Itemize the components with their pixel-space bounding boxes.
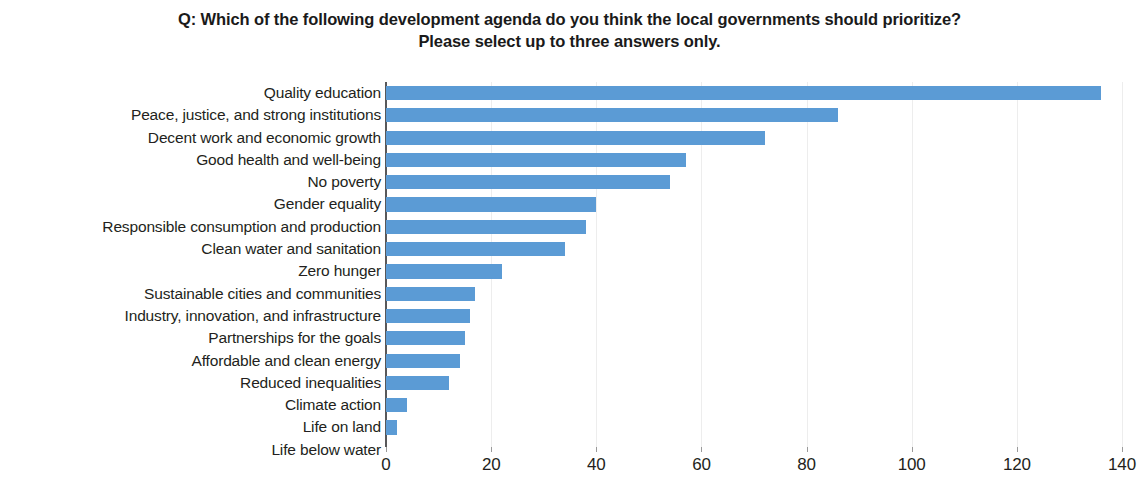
bar-row: Reduced inequalities bbox=[0, 372, 1139, 394]
category-label: Affordable and clean energy bbox=[0, 350, 381, 372]
plot-area: Quality educationPeace, justice, and str… bbox=[0, 0, 1139, 483]
bar bbox=[386, 264, 502, 278]
bar-row: No poverty bbox=[0, 171, 1139, 193]
bar-row: Clean water and sanitation bbox=[0, 238, 1139, 260]
category-label: Gender equality bbox=[0, 193, 381, 215]
category-label: No poverty bbox=[0, 171, 381, 193]
category-label: Life on land bbox=[0, 416, 381, 438]
bar bbox=[386, 197, 596, 211]
bar-track bbox=[386, 398, 407, 412]
category-label: Clean water and sanitation bbox=[0, 238, 381, 260]
x-axis-tick-label: 120 bbox=[1003, 452, 1031, 478]
category-label: Decent work and economic growth bbox=[0, 127, 381, 149]
category-label: Partnerships for the goals bbox=[0, 327, 381, 349]
bar-track bbox=[386, 264, 502, 278]
bar bbox=[386, 420, 397, 434]
category-label: Good health and well-being bbox=[0, 149, 381, 171]
bar-track bbox=[386, 86, 1101, 100]
bar bbox=[386, 309, 470, 323]
bar bbox=[386, 376, 449, 390]
bar-row: Life on land bbox=[0, 416, 1139, 438]
bar-row: Industry, innovation, and infrastructure bbox=[0, 305, 1139, 327]
bar-track bbox=[386, 376, 449, 390]
bar-row: Gender equality bbox=[0, 193, 1139, 215]
bar-row: Good health and well-being bbox=[0, 149, 1139, 171]
x-axis-tick-label: 60 bbox=[692, 452, 711, 478]
bar bbox=[386, 153, 686, 167]
x-axis-tick-label: 100 bbox=[898, 452, 926, 478]
category-label: Reduced inequalities bbox=[0, 372, 381, 394]
bar bbox=[386, 242, 565, 256]
bar-track bbox=[386, 220, 586, 234]
category-label: Industry, innovation, and infrastructure bbox=[0, 305, 381, 327]
bar-track bbox=[386, 175, 670, 189]
bar-row: Climate action bbox=[0, 394, 1139, 416]
bar-row: Responsible consumption and production bbox=[0, 216, 1139, 238]
category-label: Quality education bbox=[0, 82, 381, 104]
category-label: Responsible consumption and production bbox=[0, 216, 381, 238]
x-axis-tick-label: 80 bbox=[797, 452, 816, 478]
x-axis-tick-label: 40 bbox=[587, 452, 606, 478]
bar bbox=[386, 354, 460, 368]
bar bbox=[386, 131, 765, 145]
bar-track bbox=[386, 197, 596, 211]
bar-track bbox=[386, 131, 765, 145]
bar-track bbox=[386, 420, 397, 434]
category-label: Climate action bbox=[0, 394, 381, 416]
bar-track bbox=[386, 354, 460, 368]
bar-track bbox=[386, 331, 465, 345]
bar bbox=[386, 287, 475, 301]
bar bbox=[386, 86, 1101, 100]
bar bbox=[386, 398, 407, 412]
bar-track bbox=[386, 287, 475, 301]
category-label: Peace, justice, and strong institutions bbox=[0, 104, 381, 126]
bar-track bbox=[386, 153, 686, 167]
category-label: Sustainable cities and communities bbox=[0, 283, 381, 305]
bar bbox=[386, 331, 465, 345]
bar-row: Peace, justice, and strong institutions bbox=[0, 104, 1139, 126]
bar-row: Quality education bbox=[0, 82, 1139, 104]
bar-row: Affordable and clean energy bbox=[0, 350, 1139, 372]
bar-track bbox=[386, 309, 470, 323]
bar-row: Decent work and economic growth bbox=[0, 127, 1139, 149]
bar-track bbox=[386, 242, 565, 256]
category-label: Zero hunger bbox=[0, 260, 381, 282]
bar bbox=[386, 220, 586, 234]
bar-chart: Q: Which of the following development ag… bbox=[0, 0, 1139, 483]
x-axis-tick-labels: 020406080100120140 bbox=[0, 452, 1139, 480]
x-axis-tick-label: 0 bbox=[381, 452, 390, 478]
x-axis-tick-label: 140 bbox=[1108, 452, 1136, 478]
bar-row: Partnerships for the goals bbox=[0, 327, 1139, 349]
bar-row: Zero hunger bbox=[0, 260, 1139, 282]
bar-rows: Quality educationPeace, justice, and str… bbox=[0, 82, 1139, 461]
bar bbox=[386, 108, 838, 122]
bar bbox=[386, 175, 670, 189]
bar-row: Sustainable cities and communities bbox=[0, 283, 1139, 305]
x-axis-tick-label: 20 bbox=[482, 452, 501, 478]
bar-track bbox=[386, 108, 838, 122]
